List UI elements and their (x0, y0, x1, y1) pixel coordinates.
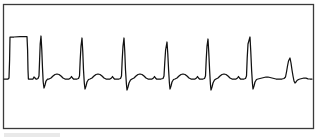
chart-border-frame (4, 5, 314, 129)
ecg-rhythm-strip-figure (0, 0, 319, 140)
scan-edge-artifact (4, 133, 60, 137)
ecg-chart-canvas (0, 0, 319, 140)
